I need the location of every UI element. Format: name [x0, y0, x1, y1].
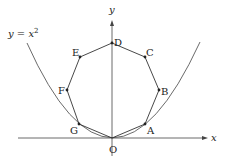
- y-axis-label: y: [108, 4, 115, 15]
- parabola-curve: [27, 42, 200, 138]
- vertex-label-f: F: [58, 85, 65, 96]
- vertex-dot-a: [144, 123, 147, 126]
- vertex-dot-g: [78, 123, 81, 126]
- x-axis-label: x: [211, 132, 217, 143]
- vertex-label-e: E: [72, 47, 79, 58]
- y-axis-arrow-icon: [110, 20, 114, 26]
- vertex-label-d: D: [114, 37, 122, 48]
- parabola-octagon-diagram: y x O A B C D E F G y = x2: [0, 0, 231, 162]
- vertex-dot-b: [158, 89, 161, 92]
- origin-label: O: [109, 144, 117, 155]
- curve-label: y = x2: [7, 27, 39, 39]
- vertex-label-c: C: [146, 47, 154, 58]
- vertex-dot-f: [66, 89, 69, 92]
- vertex-label-a: A: [146, 125, 155, 136]
- vertex-label-g: G: [70, 125, 78, 136]
- x-axis-arrow-icon: [202, 136, 208, 140]
- vertex-label-b: B: [161, 86, 168, 97]
- vertex-dot-d: [111, 42, 114, 45]
